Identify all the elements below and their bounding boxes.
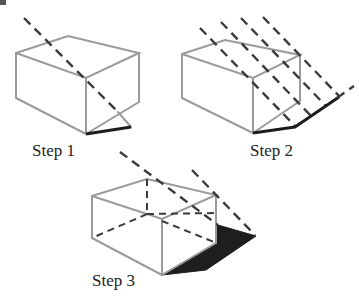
- step-2-shadow-outline: [253, 97, 339, 133]
- step-2-box: [182, 40, 300, 133]
- step-2-figure: [182, 17, 354, 133]
- step-1-ray-end: [118, 112, 131, 127]
- step-3-light-rays: [120, 152, 255, 235]
- step-3-label: Step 3: [92, 271, 135, 291]
- step-1-label: Step 1: [32, 141, 75, 161]
- step-2-label: Step 2: [250, 141, 293, 161]
- step-1-light-ray: [24, 18, 118, 112]
- step-1-box: [16, 36, 139, 134]
- step-1-figure: [16, 18, 139, 134]
- step-2-ray-extension: [337, 86, 354, 98]
- step-3-figure: [92, 152, 256, 275]
